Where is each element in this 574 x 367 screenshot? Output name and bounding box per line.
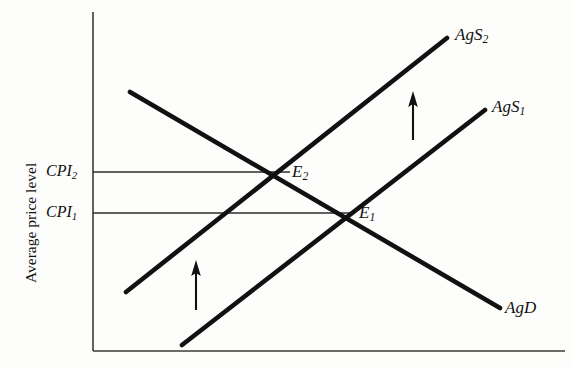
e2-point-label: E2 — [292, 163, 308, 183]
e2-point-label-subscript: 2 — [302, 170, 308, 183]
e2-point-label-text: E — [292, 162, 302, 181]
cpi2-label-text: CPI — [46, 162, 72, 179]
cpi1-label-subscript: 1 — [72, 210, 77, 222]
shift-arrow-upper-icon — [408, 91, 418, 140]
e1-point-label-subscript: 1 — [369, 211, 375, 224]
e1-point-label: E1 — [359, 204, 375, 224]
aggregate-supply-1-curve — [182, 110, 485, 345]
agd-curve-label-text: AgD — [505, 298, 536, 317]
economics-diagram: Average price level CPI2 CPI1 AgS2 AgS1 … — [0, 0, 574, 367]
ags1-curve-label: AgS1 — [492, 98, 525, 118]
aggregate-supply-2-curve — [126, 38, 447, 292]
cpi1-label-text: CPI — [46, 203, 72, 220]
ags2-curve-label: AgS2 — [455, 26, 488, 46]
diagram-canvas — [0, 0, 574, 367]
y-axis-title: Average price level — [22, 163, 40, 283]
e1-point-label-text: E — [359, 203, 369, 222]
cpi2-label-subscript: 2 — [72, 169, 77, 181]
ags2-curve-label-subscript: 2 — [482, 33, 488, 46]
agd-curve-label: AgD — [505, 299, 536, 319]
ags2-curve-label-text: AgS — [455, 25, 482, 44]
ags1-curve-label-subscript: 1 — [519, 105, 525, 118]
aggregate-demand-curve — [130, 92, 500, 308]
cpi1-label: CPI1 — [46, 204, 77, 222]
cpi2-label: CPI2 — [46, 163, 77, 181]
ags1-curve-label-text: AgS — [492, 97, 519, 116]
shift-arrow-lower-icon — [191, 260, 201, 310]
